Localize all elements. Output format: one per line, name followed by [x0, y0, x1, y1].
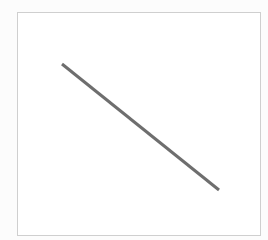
- figure-root: Diagonal line segment diagonal line rect…: [0, 0, 268, 240]
- diagonal-line: [62, 64, 219, 190]
- line-canvas: [0, 0, 268, 240]
